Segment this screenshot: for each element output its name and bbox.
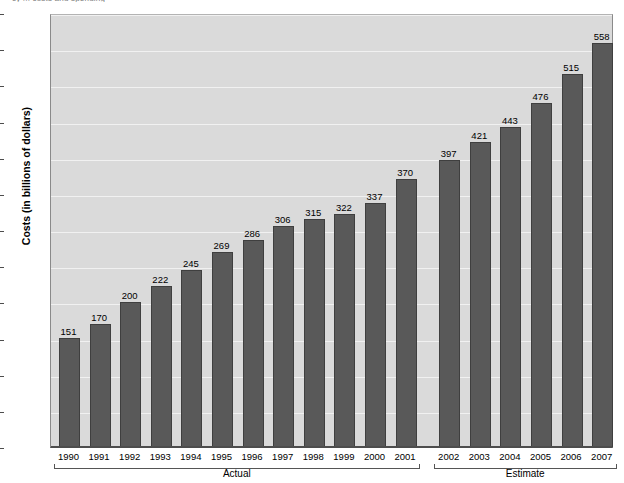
bar [439, 160, 460, 447]
gridline [51, 232, 612, 233]
bar-value-label: 245 [171, 259, 211, 269]
bar [243, 240, 264, 447]
y-tick-mark [0, 159, 4, 160]
gridline [51, 15, 612, 16]
bar [500, 127, 521, 447]
bar [592, 43, 613, 447]
y-tick-mark [0, 123, 4, 124]
bar-value-label: 337 [355, 192, 395, 202]
bar-value-label: 558 [582, 32, 622, 42]
y-tick-mark [0, 195, 4, 196]
bar [396, 179, 417, 447]
bar-value-label: 200 [110, 291, 150, 301]
y-tick-mark [0, 412, 4, 413]
group-label: Estimate [434, 468, 617, 480]
bar [59, 338, 80, 447]
bar [531, 103, 552, 447]
bar-value-label: 397 [429, 149, 469, 159]
bar-value-label: 322 [324, 203, 364, 213]
gridline [51, 51, 612, 52]
y-axis-title: Costs (in billions of dollars) [20, 56, 32, 296]
bar-value-label: 269 [202, 241, 242, 251]
y-tick-mark [0, 14, 4, 15]
bar [181, 270, 202, 447]
y-tick-mark [0, 340, 4, 341]
gridline [51, 268, 612, 269]
bar [120, 302, 141, 447]
x-tick-label: 2007 [582, 451, 622, 462]
y-tick-mark [0, 448, 4, 449]
bar-value-label: 170 [79, 313, 119, 323]
bar-value-label: 515 [551, 63, 591, 73]
bar [151, 286, 172, 447]
y-tick-mark [0, 376, 4, 377]
gridline [51, 160, 612, 161]
bar [562, 74, 583, 447]
bar [365, 203, 386, 447]
bar [304, 219, 325, 447]
bar-value-label: 443 [490, 116, 530, 126]
y-tick-mark [0, 231, 4, 232]
bar [212, 252, 233, 447]
bar-value-label: 222 [140, 275, 180, 285]
bar-value-label: 476 [521, 92, 561, 102]
bar-value-label: 151 [49, 327, 89, 337]
y-tick-mark [0, 303, 4, 304]
y-tick-mark [0, 50, 4, 51]
group-label: Actual [54, 468, 421, 480]
gridline [51, 87, 612, 88]
bar [470, 142, 491, 447]
x-axis-line [51, 446, 612, 447]
bar-value-label: 421 [459, 131, 499, 141]
bar [273, 226, 294, 447]
bar-value-label: 370 [385, 168, 425, 178]
x-tick-label: 2001 [385, 451, 425, 462]
gridline [51, 196, 612, 197]
bar-value-label: 286 [232, 229, 272, 239]
y-tick-mark [0, 267, 4, 268]
y-tick-mark [0, 86, 4, 87]
bar [90, 324, 111, 447]
bar [334, 214, 355, 447]
chart-plot-area [50, 14, 613, 448]
top-caption: cy ... costs and spending [12, 0, 105, 2]
